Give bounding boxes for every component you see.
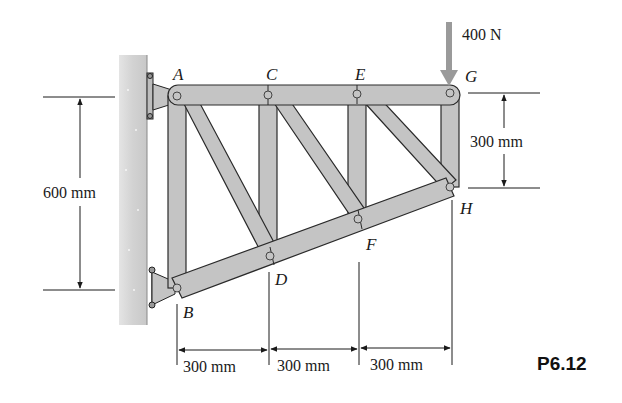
pin-b <box>173 284 181 292</box>
pin-h <box>446 183 454 191</box>
member-ab <box>168 96 186 288</box>
figure-number: P6.12 <box>537 353 587 374</box>
joint-label-a: A <box>172 65 184 84</box>
truss-diagram: 400 N A C E G B D F H 600 mm 300 mm 300 … <box>0 0 622 403</box>
joint-label-g: G <box>465 67 477 86</box>
pin-e <box>353 90 361 98</box>
load-label: 400 N <box>462 26 502 43</box>
joint-label-c: C <box>266 65 278 84</box>
load-arrow-icon <box>440 22 458 86</box>
dimension-label-left: 600 mm <box>43 184 96 201</box>
joint-label-f: F <box>365 235 377 254</box>
joint-label-h: H <box>459 199 474 218</box>
pin-d <box>266 252 274 260</box>
member-ag <box>168 85 460 105</box>
pin-f <box>354 215 362 223</box>
joint-label-b: B <box>183 303 194 322</box>
span-label-1: 300 mm <box>183 358 236 375</box>
joint-label-d: D <box>274 270 288 289</box>
pin-c <box>264 91 272 99</box>
member-bh <box>172 178 454 298</box>
truss-members <box>168 85 460 298</box>
pin-g <box>446 89 454 97</box>
dimension-label-right: 300 mm <box>470 133 523 150</box>
pin-a <box>173 92 181 100</box>
span-label-2: 300 mm <box>277 357 330 374</box>
span-label-3: 300 mm <box>370 356 423 373</box>
joint-label-e: E <box>354 65 366 84</box>
wall <box>119 55 147 325</box>
